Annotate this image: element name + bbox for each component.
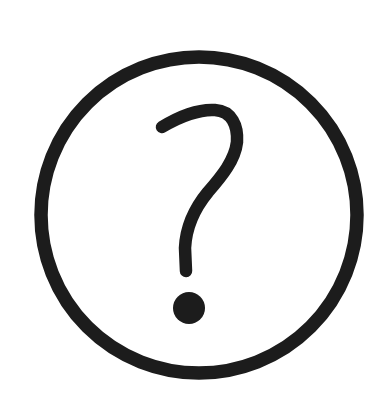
help-icon-canvas: ? xyxy=(0,0,392,410)
question-mark-dot xyxy=(173,292,205,324)
question-mark-hook xyxy=(162,110,237,271)
question-circle-icon xyxy=(0,0,392,410)
